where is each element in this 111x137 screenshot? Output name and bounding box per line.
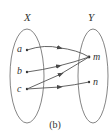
- mapping-arrow-b-m: [27, 57, 89, 72]
- element-label-a: a: [17, 43, 22, 54]
- set-label-y: Y: [88, 11, 96, 23]
- set-label-x: X: [23, 11, 32, 23]
- mapping-arrow-c-n: [27, 82, 89, 89]
- mapping-diagram: X Y a b c m n (b): [0, 0, 111, 137]
- set-x-ellipse: [10, 29, 44, 123]
- element-label-n: n: [93, 76, 98, 87]
- element-label-c: c: [17, 83, 22, 94]
- element-label-m: m: [93, 51, 100, 62]
- element-label-b: b: [17, 65, 22, 76]
- figure-caption: (b): [49, 119, 61, 131]
